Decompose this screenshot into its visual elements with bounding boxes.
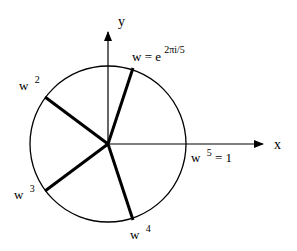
label-w3-base: w <box>14 187 24 202</box>
spoke-w <box>108 68 133 144</box>
roots-of-unity-diagram: y x w = e 2πi/5 w 2 w 3 w 4 w 5 = 1 <box>0 0 297 251</box>
label-w4: w 4 <box>130 223 151 242</box>
x-axis-label: x <box>274 137 281 152</box>
label-w4-exp: 4 <box>146 223 151 234</box>
label-w5: w 5 = 1 <box>191 144 232 165</box>
label-w2-exp: 2 <box>35 74 40 85</box>
label-w5-eq: = 1 <box>215 150 232 165</box>
y-axis-label: y <box>118 14 125 29</box>
label-w: w = e 2πi/5 <box>132 44 185 64</box>
label-w3-exp: 3 <box>30 183 35 194</box>
label-w-base: w = e <box>132 49 161 64</box>
spoke-w2 <box>45 97 108 144</box>
label-w2-base: w <box>19 78 29 93</box>
label-w4-base: w <box>130 227 140 242</box>
label-w5-exp: 5 <box>207 147 212 158</box>
label-w3: w 3 <box>14 183 35 202</box>
spoke-w4 <box>108 144 133 220</box>
label-w5-base: w <box>191 150 201 165</box>
label-w2: w 2 <box>19 74 40 93</box>
label-w-exponent: 2πi/5 <box>164 44 185 55</box>
spoke-w3 <box>45 144 108 191</box>
